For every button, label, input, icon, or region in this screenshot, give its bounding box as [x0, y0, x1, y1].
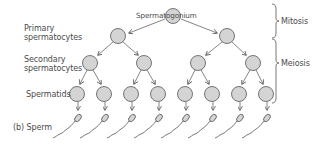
spermatid-cell [178, 87, 193, 102]
sperm-label: (b) Sperm [13, 123, 52, 132]
spermatid-cell [232, 87, 247, 102]
sperm-icon [242, 113, 272, 138]
primary-label-line1: Primary [24, 24, 54, 33]
spermatogenesis-diagram: Spermatogonium Primary spermatocytes Sec… [0, 0, 322, 149]
secondary-spermatocyte-cell [83, 56, 98, 71]
meiosis-label: Meiosis [281, 59, 310, 68]
primary-spermatocyte-cell [111, 29, 126, 44]
sperm-icon [188, 113, 218, 138]
differentiation-arrows [78, 102, 267, 110]
secondary-spermatocyte-cell [137, 56, 152, 71]
sperm-icon [215, 113, 245, 138]
spermatogonium-label: Spermatogonium [136, 11, 197, 20]
secondary-label-line2: spermatocytes [24, 64, 82, 73]
cells [70, 9, 274, 102]
spermatid-cell [97, 87, 112, 102]
spermatid-cell [70, 87, 85, 102]
sperm-icon [53, 113, 83, 138]
secondary-spermatocyte-cell [246, 56, 261, 71]
secondary-label-line1: Secondary [24, 55, 65, 64]
phase-braces [272, 4, 279, 103]
mitosis-label: Mitosis [281, 17, 308, 26]
primary-label-line2: spermatocytes [24, 33, 82, 42]
sperm-icon [134, 113, 164, 138]
spermatid-cell [259, 87, 274, 102]
secondary-spermatocyte-cell [191, 56, 206, 71]
meiosis-2-arrows [80, 70, 263, 84]
sperm-icon [80, 113, 110, 138]
sperm-icon [161, 113, 191, 138]
sperm-cells [53, 113, 272, 138]
mitosis-brace [272, 4, 279, 38]
sperm-icon [107, 113, 137, 138]
spermatids-label: Spermatids [26, 90, 71, 99]
meiosis-1-arrows [98, 42, 246, 55]
spermatid-cell [205, 87, 220, 102]
primary-spermatocyte-cell [220, 29, 235, 44]
spermatid-cell [124, 87, 139, 102]
spermatid-cell [151, 87, 166, 102]
